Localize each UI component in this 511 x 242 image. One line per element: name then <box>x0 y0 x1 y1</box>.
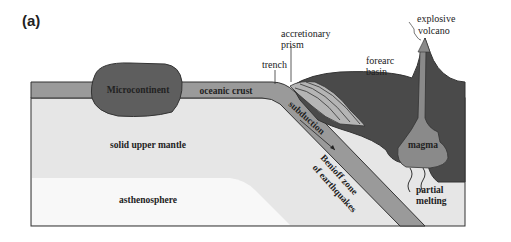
oceanic-crust-label: oceanic crust <box>199 86 253 96</box>
partial-melting-label-2: melting <box>416 196 447 206</box>
microcontinent-label: Microcontinent <box>107 85 170 95</box>
subduction-diagram: Microcontinent oceanic crust trench accr… <box>0 0 511 242</box>
trench-label: trench <box>262 59 287 70</box>
partial-melting-label-1: partial <box>416 185 444 195</box>
forearc-basin-label-2: basin <box>366 66 387 77</box>
magma-label: magma <box>408 140 438 150</box>
explosive-volcano-label-1: explosive <box>417 13 456 24</box>
solid-upper-mantle-label: solid upper mantle <box>110 140 186 150</box>
forearc-basin-label-1: forearc <box>366 55 395 66</box>
explosive-volcano-label-2: volcano <box>418 25 450 36</box>
accretionary-prism-label-2: prism <box>281 39 304 50</box>
accretionary-prism-label-1: accretionary <box>281 28 330 39</box>
asthenosphere-label: asthenosphere <box>119 195 177 205</box>
